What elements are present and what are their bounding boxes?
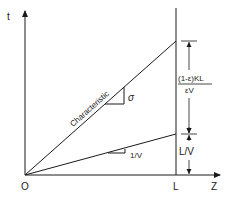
length-marker-label: L: [173, 181, 179, 192]
diagram-canvas: t Z O L Characteristic σ 1/V: [0, 0, 229, 205]
sigma-slope-label: σ: [128, 92, 135, 103]
upper-dimension-denominator: εV: [185, 86, 195, 95]
upper-dimension-numerator: (1-ε)KL: [178, 74, 204, 83]
upper-dimension-label: (1-ε)KL εV: [178, 74, 212, 95]
lower-dimension-label: L/V: [179, 146, 194, 157]
z-axis-label: Z: [211, 181, 217, 192]
characteristic-label: Characteristic: [68, 89, 111, 128]
inverse-velocity-slope-triangle: [108, 149, 125, 153]
t-axis-label: t: [7, 11, 10, 22]
inverse-velocity-slope-label: 1/V: [130, 151, 143, 160]
origin-label: O: [21, 181, 29, 192]
